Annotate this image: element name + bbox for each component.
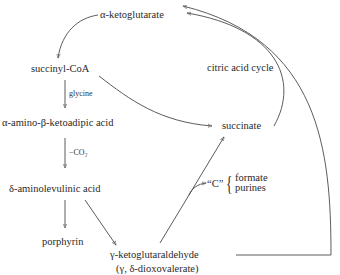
node-delta-aminolevulinic-acid: δ-aminolevulinic acid [9, 183, 101, 195]
node-c-unit-group: “C” { formate purines [207, 173, 268, 193]
edge-label-glycine: glycine [69, 89, 93, 99]
node-c-unit: “C” [207, 178, 223, 189]
node-gamma-ketoglutaraldehyde: γ-ketoglutaraldehyde [110, 249, 199, 261]
c-unit-products: formate purines [235, 173, 268, 193]
metabolic-pathway-diagram: α-ketoglutarate succinyl-CoA glycine α-a… [0, 0, 340, 275]
arrow-succinyl-coa-to-succinate [99, 76, 212, 126]
node-succinyl-coa: succinyl-CoA [31, 63, 89, 75]
label-citric-acid-cycle: citric acid cycle [207, 62, 273, 74]
arrow-akg-to-succinyl-coa [58, 15, 98, 58]
node-porphyrin: porphyrin [42, 236, 83, 248]
node-gamma-delta-dioxovalerate: (γ, δ-dioxovalerate) [116, 263, 198, 275]
product-purines: purines [235, 183, 268, 193]
arrow-branch-to-c-unit [189, 183, 206, 195]
edge-label-minus-co2: −CO₂ [69, 148, 87, 158]
node-alpha-amino-beta-ketoadipic-acid: α-amino-β-ketoadipic acid [2, 117, 113, 129]
brace-icon: { [226, 173, 232, 193]
arrow-ala-to-ketoglutaraldehyde [85, 200, 116, 245]
node-succinate: succinate [222, 120, 261, 132]
node-alpha-ketoglutarate: α-ketoglutarate [100, 9, 164, 21]
diagram-arrows [0, 0, 340, 275]
